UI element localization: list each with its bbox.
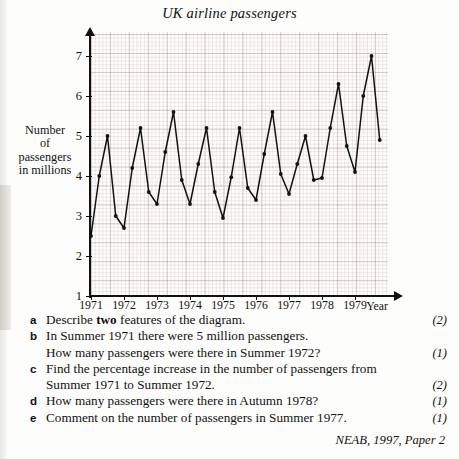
question-emphasis: two: [96, 312, 117, 327]
data-point-marker: [271, 110, 275, 114]
data-point-marker: [238, 126, 242, 130]
data-point-marker: [254, 198, 258, 202]
data-point-marker: [147, 190, 151, 194]
chart-figure: UK airline passengers Numberofpassengers…: [0, 0, 459, 315]
data-point-marker: [89, 234, 93, 238]
question-letter: a: [30, 312, 42, 329]
data-point-marker: [213, 190, 217, 194]
data-point-marker: [353, 170, 357, 174]
data-point-marker: [97, 174, 101, 178]
data-point-marker: [320, 176, 324, 180]
data-point-marker: [155, 202, 159, 206]
question-marks: (1): [432, 393, 447, 409]
question-letter: c: [30, 361, 42, 378]
question-letter: b: [30, 328, 42, 345]
question-d: dHow many passengers were there in Autum…: [0, 393, 459, 409]
question-text-line: In Summer 1971 there were 5 million pass…: [46, 328, 459, 344]
data-point-marker: [370, 54, 374, 58]
data-point-marker: [106, 134, 110, 138]
question-text-line: Describe two features of the diagram.(2): [46, 312, 459, 328]
question-e: eComment on the number of passengers in …: [0, 410, 459, 426]
data-point-marker: [180, 178, 184, 182]
data-point-marker: [304, 134, 308, 138]
question-c: cFind the percentage increase in the num…: [0, 361, 459, 394]
data-point-marker: [130, 166, 134, 170]
question-marks: (2): [432, 312, 447, 328]
data-point-marker: [229, 175, 233, 179]
question-list: aDescribe two features of the diagram.(2…: [0, 312, 459, 426]
data-point-marker: [361, 94, 365, 98]
data-point-marker: [337, 82, 341, 86]
data-point-marker: [378, 138, 382, 142]
question-a: aDescribe two features of the diagram.(2…: [0, 312, 459, 328]
data-point-marker: [188, 202, 192, 206]
data-point-marker: [221, 216, 225, 220]
data-point-marker: [345, 144, 349, 148]
data-point-marker: [262, 152, 266, 156]
question-text-line: How many passengers were there in Autumn…: [46, 393, 459, 409]
question-marks: (2): [432, 377, 447, 393]
data-point-marker: [139, 126, 143, 130]
question-b: bIn Summer 1971 there were 5 million pas…: [0, 328, 459, 361]
question-letter: e: [30, 410, 42, 427]
question-letter: d: [30, 393, 42, 410]
data-point-marker: [246, 186, 250, 190]
question-marks: (1): [432, 345, 447, 361]
data-point-marker: [279, 172, 283, 176]
data-point-markers: [89, 54, 382, 238]
question-marks: (1): [432, 410, 447, 426]
data-series-line: [0, 0, 459, 315]
source-attribution: NEAB, 1997, Paper 2: [336, 433, 445, 448]
data-point-marker: [114, 214, 118, 218]
data-point-marker: [172, 110, 176, 114]
question-text-line: Find the percentage increase in the numb…: [46, 361, 459, 377]
data-point-marker: [205, 126, 209, 130]
data-point-marker: [328, 126, 332, 130]
question-text-line: Comment on the number of passengers in S…: [46, 410, 459, 426]
data-point-marker: [312, 178, 316, 182]
data-point-marker: [287, 192, 291, 196]
data-point-marker: [295, 162, 299, 166]
question-text-line: How many passengers were there in Summer…: [46, 345, 459, 361]
data-point-marker: [196, 162, 200, 166]
data-point-marker: [163, 150, 167, 154]
question-text-line: Summer 1971 to Summer 1972.(2): [46, 377, 459, 393]
data-point-marker: [122, 226, 126, 230]
